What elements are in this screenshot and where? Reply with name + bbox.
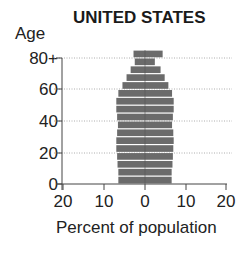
bar-left <box>116 145 145 152</box>
bar-right <box>145 145 173 152</box>
bar-right <box>145 106 174 113</box>
bar-left <box>118 90 145 97</box>
bar-right <box>145 98 174 105</box>
bar-left <box>117 129 145 136</box>
bar-left <box>117 153 145 160</box>
bar-right <box>145 161 172 168</box>
bar-right <box>145 74 165 81</box>
bar-left <box>116 106 145 113</box>
bar-left <box>118 169 145 176</box>
bar-left <box>116 98 145 105</box>
bar-left <box>135 58 145 65</box>
bar-right <box>145 177 172 184</box>
bar-right <box>145 122 172 129</box>
bar-right <box>145 66 161 73</box>
bar-left <box>117 114 145 121</box>
bar-left <box>118 122 145 129</box>
bar-right <box>145 114 173 121</box>
bar-right <box>145 153 173 160</box>
bar-right <box>145 58 155 65</box>
bar-right <box>145 90 172 97</box>
bar-left <box>134 51 145 58</box>
bar-right <box>145 82 168 89</box>
pyramid-plot <box>0 0 252 257</box>
bar-left <box>127 74 145 81</box>
bar-right <box>145 129 173 136</box>
bar-left <box>118 161 145 168</box>
bar-right <box>145 137 174 144</box>
bar-left <box>118 177 145 184</box>
bar-left <box>122 82 145 89</box>
bar-right <box>145 51 163 58</box>
bar-left <box>131 66 145 73</box>
bar-left <box>116 137 145 144</box>
bar-right <box>145 169 172 176</box>
